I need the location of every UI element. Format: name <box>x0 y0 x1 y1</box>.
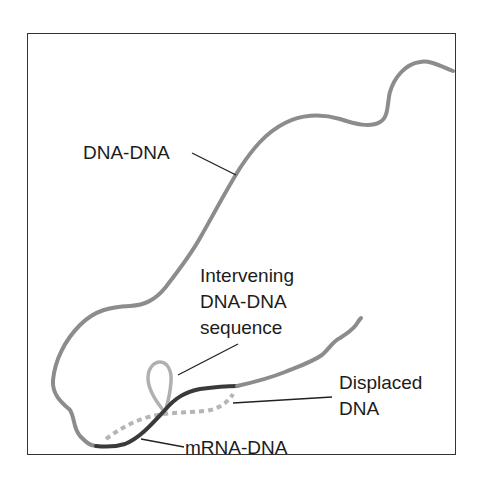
dna-dna-leader-line <box>192 153 236 175</box>
label-intervening-2: DNA-DNA <box>200 291 287 313</box>
label-displaced-2: DNA <box>339 398 379 420</box>
intervening-leader-line <box>178 344 238 375</box>
r-loop-diagram: DNA-DNA Intervening DNA-DNA sequence Dis… <box>0 0 482 486</box>
strand-drawing <box>0 0 482 486</box>
label-displaced-1: Displaced <box>339 372 422 394</box>
label-intervening-3: sequence <box>200 317 282 339</box>
label-mrna-dna: mRNA-DNA <box>185 437 287 459</box>
label-intervening-1: Intervening <box>200 265 294 287</box>
displaced-leader-line <box>233 397 332 403</box>
intervening-loop <box>148 362 171 410</box>
mrna-dna-leader-line <box>141 439 184 447</box>
label-dna-dna: DNA-DNA <box>83 142 170 164</box>
